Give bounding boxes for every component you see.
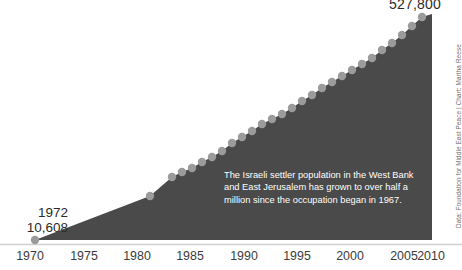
chart-credit-label: Data: Foundation for Middle East Peace |… — [455, 44, 462, 228]
data-point — [288, 104, 296, 112]
xtick-label: 1985 — [170, 249, 210, 263]
data-point — [388, 39, 396, 47]
start-year-label: 1972 — [0, 205, 68, 220]
xtick-label: 1970 — [10, 249, 50, 263]
data-point — [31, 236, 39, 244]
data-point — [318, 84, 326, 92]
data-point — [278, 110, 286, 118]
xtick-label: 1990 — [224, 249, 264, 263]
data-point — [338, 72, 346, 80]
xtick-label: 1995 — [277, 249, 317, 263]
data-point — [358, 60, 366, 68]
xtick-label: 1975 — [64, 249, 104, 263]
data-point — [146, 192, 154, 200]
data-point — [398, 31, 406, 39]
peak-value-label: 527,800 — [389, 0, 441, 12]
data-point — [168, 173, 176, 181]
data-point — [418, 13, 426, 21]
data-point — [198, 158, 206, 166]
data-point — [208, 153, 216, 161]
data-point — [178, 168, 186, 176]
data-point — [218, 147, 226, 155]
data-point — [228, 139, 236, 147]
xtick-label: 2010 — [411, 249, 451, 263]
data-point — [348, 66, 356, 74]
data-point — [298, 97, 306, 105]
data-point — [328, 78, 336, 86]
data-point — [248, 127, 256, 135]
start-value-label: 10,608 — [0, 220, 68, 235]
data-point — [258, 120, 266, 128]
settler-population-area-chart: 527,800 1972 10,608 The Israeli settler … — [0, 0, 462, 270]
data-point — [188, 164, 196, 172]
data-point — [308, 91, 316, 99]
xtick-label: 1980 — [117, 249, 157, 263]
data-point — [408, 22, 416, 30]
data-point — [268, 115, 276, 123]
data-point — [368, 54, 376, 62]
xtick-label: 2000 — [330, 249, 370, 263]
data-point — [238, 133, 246, 141]
data-point — [378, 46, 386, 54]
chart-plot-area — [0, 0, 462, 270]
chart-annotation-text: The Israeli settler population in the We… — [224, 169, 430, 206]
